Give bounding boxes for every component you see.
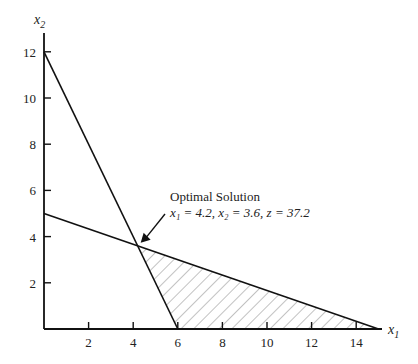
x-axis-label: x1 [387,322,399,340]
y-tick-label: 10 [23,91,36,106]
x-tick-label: 8 [219,335,226,350]
x-tick-label: 12 [305,335,318,350]
y-tick-label: 6 [30,183,37,198]
constraint-1-line [44,52,178,329]
y-tick-label: 2 [30,276,37,291]
x-tick-label: 10 [261,335,274,350]
lp-graph: 246810121424681012 x2 x1 Optimal Solutio… [0,0,418,364]
annotation-arrow [147,214,165,237]
x-tick-label: 2 [85,335,92,350]
y-axis-label: x2 [33,12,45,30]
annotation-title: Optimal Solution [170,189,260,204]
y-tick-label: 8 [30,137,37,152]
x-tick-label: 4 [130,335,137,350]
x-tick-label: 14 [350,335,364,350]
y-tick-label: 4 [30,230,37,245]
annotation-values: x₁ = 4.2, x₂ = 3.6, z = 37.2 [169,205,310,220]
x-tick-label: 6 [175,335,182,350]
y-tick-label: 12 [23,45,36,60]
